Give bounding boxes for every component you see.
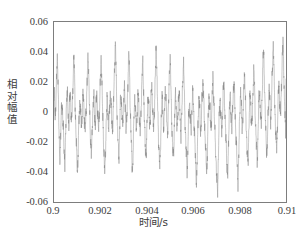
y-axis-label: 相 对 幅 值 [3,79,21,125]
xtick-label: 0.904 [126,205,168,216]
signal-waveform [54,22,286,202]
xtick-label: 0.906 [172,205,214,216]
plot-area [53,21,287,203]
y-axis-label-char: 幅 [3,102,21,114]
y-axis-label-char: 相 [3,79,21,91]
ytick-label: 0.06 [30,16,48,27]
xtick-label: 0.91 [270,205,304,216]
ytick-label: -0.02 [26,136,48,147]
ytick-label: 0 [43,106,48,117]
xtick-label: 0.908 [219,205,261,216]
x-axis-label: 时间/s [0,216,307,228]
xtick-label: 0.9 [36,205,70,216]
y-axis-label-char: 值 [3,114,21,126]
ytick-label: 0.04 [30,46,48,57]
ytick-label: -0.04 [26,166,48,177]
ytick-label: 0.02 [30,76,48,87]
chart-figure: 0.06 0.04 0.02 0 -0.02 -0.04 -0.06 0.9 0… [0,0,307,234]
signal-line [54,37,286,198]
xtick-label: 0.902 [79,205,121,216]
